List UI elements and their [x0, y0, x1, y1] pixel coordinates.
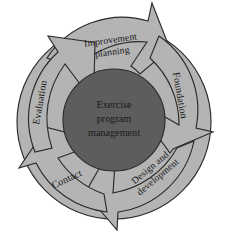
cycle-diagram-canvas: Exercise program management Improvement … [0, 0, 229, 246]
hub-label-line-3: management [88, 127, 140, 138]
cycle-diagram: Exercise program management Improvement … [0, 0, 229, 246]
hub-label-line-2: program [97, 113, 132, 124]
hub-label-line-1: Exercise [96, 99, 132, 110]
